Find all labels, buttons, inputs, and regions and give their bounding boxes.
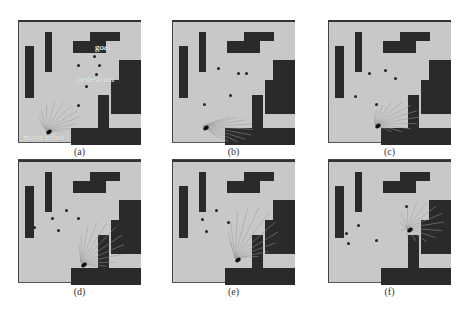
rrt-tree xyxy=(173,162,296,285)
pedestrian-marker xyxy=(77,217,80,220)
pedestrian-marker xyxy=(93,55,96,58)
pedestrian-marker xyxy=(227,221,230,224)
pedestrian-marker xyxy=(354,95,357,98)
pedestrian-marker xyxy=(394,77,397,80)
pedestrian-marker xyxy=(245,72,248,75)
pedestrian-marker xyxy=(375,103,378,106)
pedestrian-marker xyxy=(203,103,206,106)
pedestrian-marker xyxy=(347,242,350,245)
rrt-tree xyxy=(173,22,296,145)
pedestrian-marker xyxy=(217,67,220,70)
pedestrian-marker xyxy=(384,69,387,72)
map-panel-f xyxy=(328,160,451,283)
annotation-pedestrian: pedestrian xyxy=(77,74,114,84)
panel-caption-a: (a) xyxy=(18,146,141,157)
pedestrian-marker xyxy=(85,85,88,88)
pedestrian-marker xyxy=(57,229,60,232)
panel-caption-f: (f) xyxy=(328,286,451,297)
panel-caption-e: (e) xyxy=(172,286,295,297)
pedestrian-marker xyxy=(357,224,360,227)
pedestrian-marker xyxy=(77,104,80,107)
rrt-tree xyxy=(329,162,452,285)
pedestrian-marker xyxy=(215,209,218,212)
map-panel-a: goalpedestrianmove robot xyxy=(18,20,141,143)
panel-caption-c: (c) xyxy=(328,146,451,157)
pedestrian-marker xyxy=(205,230,208,233)
pedestrian-marker xyxy=(201,218,204,221)
pedestrian-marker xyxy=(77,64,80,67)
pedestrian-marker xyxy=(98,64,101,67)
rrt-tree xyxy=(329,22,452,145)
pedestrian-marker xyxy=(368,72,371,75)
pedestrian-marker xyxy=(65,209,68,212)
annotation-robot: move robot xyxy=(23,132,64,142)
pedestrian-marker xyxy=(229,94,232,97)
panel-caption-d: (d) xyxy=(18,286,141,297)
map-panel-e xyxy=(172,160,295,283)
pedestrian-marker xyxy=(345,232,348,235)
annotation-goal: goal xyxy=(95,42,111,52)
pedestrian-marker xyxy=(51,217,54,220)
map-panel-b xyxy=(172,20,295,143)
panel-caption-b: (b) xyxy=(172,146,295,157)
pedestrian-marker xyxy=(33,226,36,229)
pedestrian-marker xyxy=(375,239,378,242)
pedestrian-marker xyxy=(405,205,408,208)
map-panel-d xyxy=(18,160,141,283)
pedestrian-marker xyxy=(237,72,240,75)
map-panel-c xyxy=(328,20,451,143)
